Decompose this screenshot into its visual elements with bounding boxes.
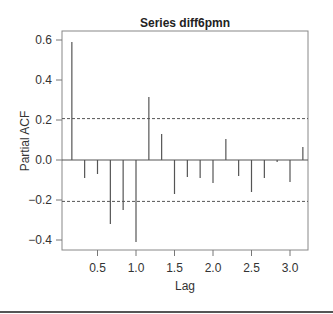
chart-title: Series diff6pmn — [140, 16, 230, 30]
x-tick-label: 2.5 — [243, 261, 260, 275]
x-tick-label: 0.5 — [89, 261, 106, 275]
x-tick-label: 2.0 — [205, 261, 222, 275]
y-tick-label: −0.4 — [28, 233, 52, 247]
y-axis-label: Partial ACF — [18, 111, 32, 172]
x-tick-label: 1.5 — [166, 261, 183, 275]
y-axis: −0.4−0.20.00.20.40.6 — [28, 33, 62, 247]
y-tick-label: 0.4 — [35, 73, 52, 87]
y-tick-label: −0.2 — [28, 193, 52, 207]
bottom-divider — [0, 311, 333, 313]
x-tick-label: 3.0 — [282, 261, 299, 275]
x-tick-label: 1.0 — [128, 261, 145, 275]
y-tick-label: 0.6 — [35, 33, 52, 47]
y-tick-label: 0.0 — [35, 153, 52, 167]
pacf-chart: Series diff6pmn −0.4−0.20.00.20.40.6 0.5… — [0, 0, 333, 314]
plot-frame — [62, 31, 308, 250]
x-axis-label: Lag — [175, 279, 195, 293]
x-axis: 0.51.01.52.02.53.0 — [89, 250, 299, 275]
pacf-stems — [72, 42, 303, 242]
y-tick-label: 0.2 — [35, 113, 52, 127]
